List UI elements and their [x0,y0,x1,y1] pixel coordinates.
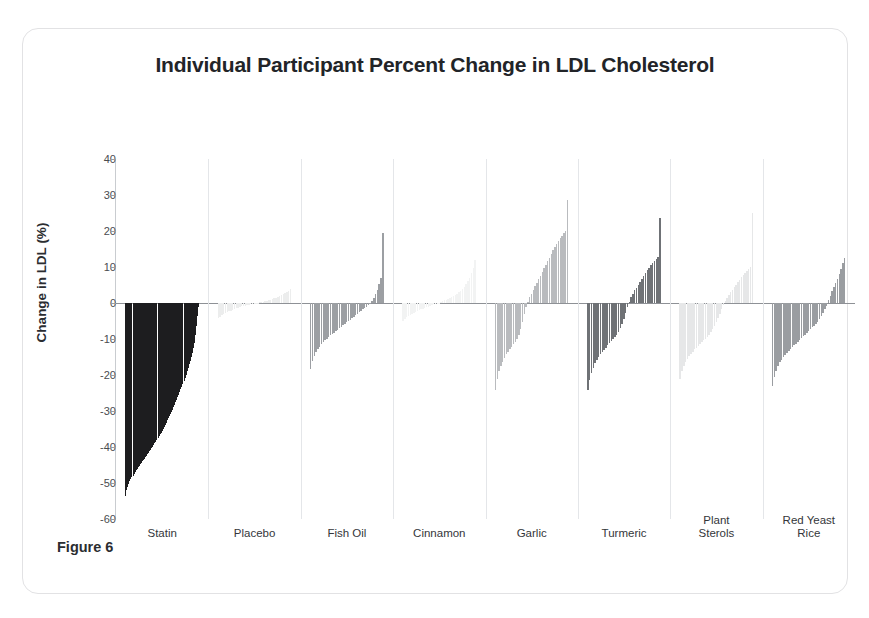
group-label-garlic: Garlic [486,527,578,540]
chart-plot-wrapper: Change in LDL (%) 403020100-10-20-30-40-… [23,29,847,593]
bar [826,303,827,306]
group-label-turmeric: Turmeric [578,527,670,540]
figure-caption: Figure 6 [57,539,113,555]
group-label-plant-sterols: Plant Sterols [670,514,762,540]
plot-area: 403020100-10-20-30-40-50-60 StatinPlaceb… [116,159,855,519]
bar [844,258,845,303]
group-label-red-yeast-rice: Red Yeast Rice [763,514,855,540]
group-label-statin: Statin [116,527,208,540]
group-label-cinnamon: Cinnamon [393,527,485,540]
group-label-placebo: Placebo [208,527,300,540]
figure-card: Individual Participant Percent Change in… [22,28,848,594]
bar-group-red-yeast-rice [116,159,855,519]
group-label-fish-oil: Fish Oil [301,527,393,540]
y-axis-tick-mark [110,519,116,520]
y-axis-title: Change in LDL (%) [34,123,49,443]
